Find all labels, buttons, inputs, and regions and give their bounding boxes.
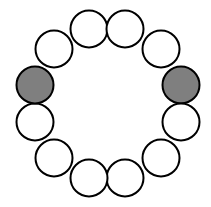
empty-circle [143,140,180,177]
empty-circle [36,31,73,68]
shaded-circle [17,67,54,104]
empty-circle [107,160,144,197]
empty-circle [163,104,200,141]
empty-circle [71,160,108,197]
empty-circle [143,31,180,68]
empty-circle [36,140,73,177]
empty-circle [71,11,108,48]
empty-circle [107,11,144,48]
circle-ring-diagram [0,0,211,207]
empty-circle [17,104,54,141]
shaded-circle [163,67,200,104]
